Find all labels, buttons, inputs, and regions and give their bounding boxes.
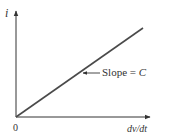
capacitor-iv-diagram: i 0 dv/dt Slope = C (0, 0, 170, 136)
slope-annotation: Slope = C (102, 67, 146, 78)
y-axis-label: i (5, 7, 8, 19)
slope-annotation-prefix: Slope = (102, 66, 139, 78)
origin-label: 0 (13, 123, 18, 133)
x-axis-label: dv/dt (127, 124, 147, 134)
slope-annotation-variable: C (139, 66, 146, 78)
